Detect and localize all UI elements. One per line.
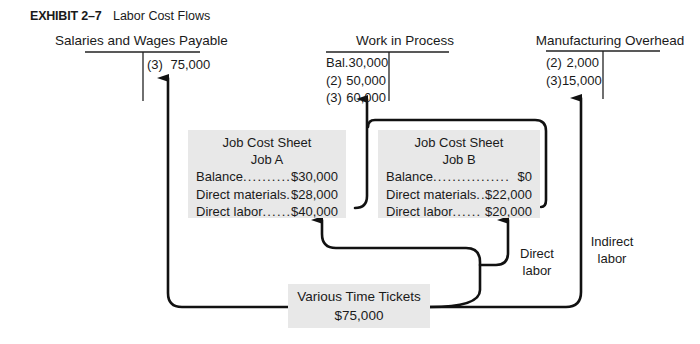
- row-value: $0: [518, 168, 532, 186]
- entry-ref: (3): [147, 56, 163, 74]
- job-cost-sheet-b: Job Cost Sheet Job B Balance ...........…: [378, 130, 540, 218]
- indirect-labor-label: Indirect labor: [582, 233, 642, 267]
- moh-entry-3: (3) 15,000: [546, 72, 599, 90]
- row-label: Direct labor: [386, 203, 452, 221]
- moh-entry-2: (2) 2,000: [546, 54, 599, 72]
- entry-amount: 2,000: [566, 54, 599, 72]
- label-line: Direct: [512, 245, 562, 262]
- account-title-wip: Work in Process: [330, 33, 480, 48]
- entry-ref: (2): [326, 72, 342, 90]
- entry-amount: 15,000: [562, 72, 602, 90]
- time-tickets-box: Various Time Tickets $75,000: [288, 284, 430, 328]
- job-a-row-direct-labor: Direct labor ...... $40,000: [196, 203, 338, 221]
- job-b-row-direct-labor: Direct labor ...... $20,000: [386, 203, 532, 221]
- row-leader: ......: [262, 203, 291, 221]
- row-value: $30,000: [291, 168, 338, 186]
- row-label: Direct labor: [196, 203, 262, 221]
- entry-ref: (3): [326, 89, 342, 107]
- job-sheet-title: Job Cost Sheet: [196, 134, 338, 151]
- job-b-row-balance: Balance ................ $0: [386, 168, 532, 186]
- job-b-row-direct-materials: Direct materials ... $22,000: [386, 186, 532, 204]
- account-title-moh: Manufacturing Overhead: [530, 33, 690, 48]
- flow-tickets-to-jobb: [480, 220, 508, 265]
- row-label: Direct materials: [196, 186, 286, 204]
- wip-entry-2: (2) 50,000: [326, 72, 386, 90]
- entry-amount: 60,000: [346, 89, 386, 107]
- account-title-salaries: Salaries and Wages Payable: [55, 33, 205, 48]
- entry-amount: 50,000: [346, 72, 386, 90]
- row-value: $20,000: [485, 203, 532, 221]
- row-leader: ...: [476, 186, 485, 204]
- flow-joba-to-wip: [355, 99, 367, 208]
- label-line: labor: [512, 262, 562, 279]
- moh-debit-entries: (2) 2,000 (3) 15,000: [546, 54, 599, 89]
- row-leader: ..........: [243, 168, 291, 186]
- entry-ref: (2): [546, 54, 562, 72]
- row-value: $28,000: [291, 186, 338, 204]
- job-name: Job A: [196, 151, 338, 168]
- wip-entry-3: (3) 60,000: [326, 89, 386, 107]
- job-name: Job B: [386, 151, 532, 168]
- job-sheet-title: Job Cost Sheet: [386, 134, 532, 151]
- entry-amount: 75,000: [171, 57, 211, 72]
- time-tickets-amount: $75,000: [288, 306, 430, 325]
- time-tickets-title: Various Time Tickets: [288, 287, 430, 306]
- row-label: Direct materials: [386, 186, 476, 204]
- row-value: $40,000: [291, 203, 338, 221]
- entry-ref: (3): [546, 72, 562, 90]
- direct-labor-label: Direct labor: [512, 245, 562, 279]
- label-line: Indirect: [582, 233, 642, 250]
- entry-ref: Bal.: [326, 54, 348, 72]
- row-value: $22,000: [485, 186, 532, 204]
- row-label: Balance: [196, 168, 243, 186]
- job-a-row-balance: Balance .......... $30,000: [196, 168, 338, 186]
- salaries-credit-entry: (3) 75,000: [147, 56, 210, 74]
- row-leader: ................: [433, 168, 518, 186]
- wip-debit-entries: Bal. 30,000 (2) 50,000 (3) 60,000: [326, 54, 386, 107]
- wip-entry-balance: Bal. 30,000: [326, 54, 386, 72]
- job-cost-sheet-a: Job Cost Sheet Job A Balance .......... …: [188, 130, 346, 218]
- row-label: Balance: [386, 168, 433, 186]
- row-leader: ......: [452, 203, 485, 221]
- label-line: labor: [582, 250, 642, 267]
- entry-amount: 30,000: [348, 54, 388, 72]
- job-a-row-direct-materials: Direct materials ... $28,000: [196, 186, 338, 204]
